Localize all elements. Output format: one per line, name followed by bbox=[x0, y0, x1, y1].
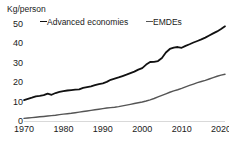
legend-item-emdes: EMDEs bbox=[146, 17, 182, 27]
line-emdes bbox=[24, 74, 225, 118]
legend-label-advanced-economies: Advanced economies bbox=[47, 17, 128, 27]
chart-container: Kg/person 01020304050 197019801990200020… bbox=[0, 0, 229, 143]
legend-item-advanced-economies: Advanced economies bbox=[40, 17, 128, 27]
legend-dash-emdes-icon bbox=[146, 21, 153, 22]
line-advanced-economies bbox=[24, 26, 225, 100]
legend-dash-advanced-economies-icon bbox=[40, 21, 47, 22]
legend-label-emdes: EMDEs bbox=[153, 17, 182, 27]
